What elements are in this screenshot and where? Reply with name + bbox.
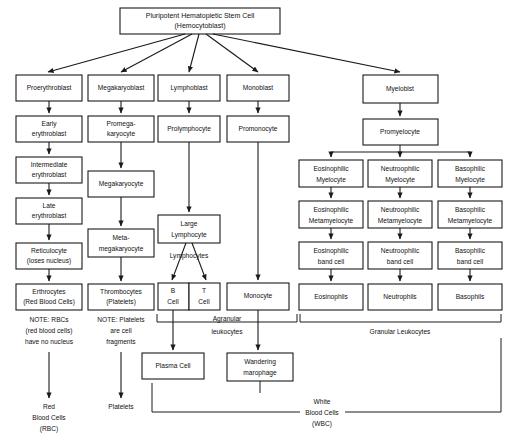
node-late-erythroblast-l2: erythroblast	[32, 212, 67, 220]
node-reticulocyte: Reticulocyte (loses nucleus)	[16, 243, 82, 269]
node-basophilic-myelocyte: Basophilic Myelocyte	[438, 160, 502, 187]
node-myeloblast-label: Myeloblst	[386, 85, 414, 93]
label-red-blood-cells: Red Blood Cells (RBC)	[32, 403, 66, 433]
node-neutrophilic-band-cell: Neutroophilic band cell	[368, 242, 432, 269]
node-promonocyte: Promonocyte	[227, 116, 289, 142]
node-reticulocyte-l2: (loses nucleus)	[27, 257, 71, 265]
label-platelets: Platelets	[108, 403, 134, 410]
node-bas-meta-l2: Metamyelocyte	[448, 217, 493, 225]
node-reticulocyte-l1: Reticulocyte	[31, 247, 67, 255]
node-neu-band-l2: band cell	[387, 258, 414, 265]
node-basophilic-band-cell: Basophilic band cell	[438, 242, 502, 269]
node-eosinophils-label: Eosinophils	[314, 293, 348, 301]
node-thrombocytes: Thrombocytes (Platelets)	[88, 284, 154, 310]
node-eos-meta-l1: Eosinophilic	[313, 206, 349, 214]
node-prolymphocyte-label: Prolymphocyte	[167, 125, 211, 133]
node-eosinophilic-metamyelocyte: Eosinophilic Metamyelocyte	[299, 201, 363, 228]
node-megakaryoblast-label: Megakaryoblast	[98, 84, 145, 92]
node-thrombocytes-l1: Thrombocytes	[100, 288, 142, 296]
label-rbc-l3: (RBC)	[40, 425, 58, 433]
node-late-erythroblast-l1: Late	[43, 202, 56, 209]
node-eosinophilic-myelocyte: Eosinophilic Myelocyte	[299, 160, 363, 187]
root-fanout-edges	[48, 34, 400, 72]
node-monoblast-label: Monoblast	[243, 84, 274, 91]
node-promonocyte-label: Promonocyte	[239, 125, 278, 133]
label-granular-leukocytes: Granular Leukocytes	[370, 328, 432, 336]
node-plasma-cell-label: Plasma Cell	[155, 362, 191, 369]
node-megakaryoblast: Megakaryoblast	[88, 75, 154, 101]
node-wandering-macrophage-l2: marophage	[243, 369, 277, 377]
node-neu-band-l1: Neutroophilic	[381, 247, 420, 255]
node-erythrocytes-l2: (Red Blood Cells)	[23, 298, 75, 306]
node-eosinophilic-band-cell: Eosinophilic band cell	[299, 242, 363, 269]
node-neu-myelo-l2: Myelocyte	[385, 176, 415, 184]
note-platelets-l2: are cell	[110, 327, 132, 334]
node-monocyte-label: Monocyte	[244, 292, 273, 300]
node-t-cell: T Cell	[189, 283, 220, 310]
label-lymphocytes: Lymphocytes	[170, 252, 209, 260]
label-wbc-l3: (WBC)	[312, 420, 332, 428]
node-neutrophilic-myelocyte: Neutroophilic Myelocyte	[368, 160, 432, 187]
node-early-erythroblast-l2: erythroblast	[32, 130, 67, 138]
node-metamegakaryocyte-l2: megakaryocyte	[99, 245, 144, 253]
node-bas-band-l2: band cell	[457, 258, 484, 265]
node-intermediate-erythroblast-l1: Intermediate	[31, 161, 68, 168]
node-thrombocytes-l2: (Platelets)	[106, 298, 136, 306]
node-eos-band-l1: Eosinophilic	[313, 247, 349, 255]
note-platelets: NOTE: Platelets are cell fragments	[97, 316, 145, 346]
node-metamegakaryocyte: Meta- megakaryocyte	[88, 229, 154, 257]
label-rbc-l1: Red	[43, 403, 55, 410]
node-eos-myelo-l1: Eosinophilic	[313, 165, 349, 173]
note-platelets-l3: fragments	[106, 338, 136, 346]
node-t-cell-l1: T	[202, 287, 206, 294]
node-b-cell: B Cell	[158, 283, 189, 310]
node-eos-myelo-l2: Myelocyte	[316, 176, 346, 184]
node-eosinophils: Eosinophils	[299, 284, 363, 310]
node-hemocytoblast-line1: Pluripotent Hematopietic Stem Cell	[146, 12, 255, 20]
node-b-cell-l2: Cell	[167, 298, 179, 305]
label-white-blood-cells: White Blood Cells (WBC)	[305, 398, 339, 428]
node-proerythroblast-label: Proerythroblast	[27, 84, 72, 92]
node-basophilic-metamyelocyte: Basophilic Metamyelocyte	[438, 201, 502, 228]
node-large-lymphocyte: Large Lymphocyte	[158, 215, 220, 243]
node-t-cell-l2: Cell	[198, 298, 210, 305]
node-neutrophils: Neutrophils	[368, 284, 432, 310]
label-wbc-l1: White	[314, 398, 331, 405]
bracket-agranular-leukocytes: Agranular leukocytes	[157, 314, 297, 336]
node-neutrophils-label: Neutrophils	[383, 293, 417, 301]
node-monoblast: Monoblast	[227, 75, 289, 101]
node-proerythroblast: Proerythroblast	[16, 75, 82, 101]
node-neutrophilic-metamyelocyte: Neutroophilic Metamyelocyte	[368, 201, 432, 228]
node-bas-myelo-l1: Basophilic	[455, 165, 486, 173]
node-bas-meta-l1: Basophilic	[455, 206, 486, 214]
note-rbc-l3: have no nucleus	[25, 338, 74, 345]
node-neu-meta-l1: Neutroophilic	[381, 206, 420, 214]
node-wandering-macrophage: Wandering marophage	[227, 353, 293, 381]
node-promyelocyte-label: Promyelocyte	[380, 128, 420, 136]
myeloid-split-edges	[331, 145, 470, 157]
node-neu-myelo-l1: Neutroophilic	[381, 165, 420, 173]
node-promegakaryocyte-l1: Promega-	[107, 120, 136, 128]
node-hemocytoblast-line2: (Hemocytoblast)	[175, 22, 226, 30]
node-intermediate-erythroblast: Intermediate erythroblast	[16, 157, 82, 183]
note-rbc-l1: NOTE: RBCs	[29, 316, 69, 323]
node-monocyte: Monocyte	[227, 283, 289, 310]
node-wandering-macrophage-l1: Wandering	[244, 358, 276, 366]
label-wbc-l2: Blood Cells	[305, 409, 339, 416]
node-eos-band-l2: band cell	[318, 258, 345, 265]
hematopoiesis-diagram: Pluripotent Hematopietic Stem Cell (Hemo…	[0, 0, 530, 445]
node-b-cell-l1: B	[171, 287, 176, 294]
label-agranular-l1: Agranular	[213, 315, 242, 323]
node-basophils: Basophils	[438, 284, 502, 310]
bracket-granular-leukocytes: Granular Leukocytes	[300, 314, 501, 336]
node-lymphoblast: Lymphoblast	[158, 75, 220, 101]
node-late-erythroblast: Late erythroblast	[16, 198, 82, 224]
node-megakaryocyte: Megakaryocyte	[88, 171, 154, 197]
node-intermediate-erythroblast-l2: erythroblast	[32, 171, 67, 179]
node-prolymphocyte: Prolymphocyte	[158, 116, 220, 142]
note-rbc: NOTE: RBCs (red blood cells) have no nuc…	[25, 316, 74, 345]
node-bas-band-l1: Basophilic	[455, 247, 486, 255]
node-eos-meta-l2: Metamyelocyte	[309, 217, 354, 225]
node-erythrocytes-l1: Erthrocytes	[32, 288, 66, 296]
node-neu-meta-l2: Metamyelocyte	[378, 217, 423, 225]
